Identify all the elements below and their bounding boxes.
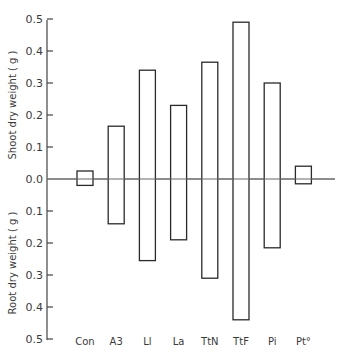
y-tick-label: 0.4 — [26, 45, 44, 58]
y-tick-label: 0.3 — [26, 77, 44, 90]
y-tick-label: 0.2 — [26, 237, 44, 250]
bar-con — [77, 171, 93, 185]
bar-ttf — [233, 22, 249, 320]
x-category-label: Con — [75, 336, 94, 347]
y-tick-label: 0.1 — [26, 205, 44, 218]
bar-la — [171, 105, 187, 239]
y-tick-label-zero: 0.0 — [26, 173, 44, 186]
x-category-label: TtF — [232, 336, 249, 347]
y-axis-title-root: Root dry weight ( g ) — [7, 212, 18, 315]
x-category-label: Ll — [143, 336, 151, 347]
bars — [47, 22, 335, 320]
x-category-label: A3 — [110, 336, 123, 347]
y-tick-label: 0.5 — [26, 333, 44, 346]
bar-a3 — [108, 126, 124, 224]
bar-pi — [264, 83, 280, 248]
bar-chart: 0.50.40.30.20.10.00.10.20.30.40.5Shoot d… — [0, 0, 347, 354]
x-category-label: TtN — [200, 336, 219, 347]
y-axis-title-shoot: Shoot dry weight ( g ) — [7, 50, 18, 159]
y-tick-label: 0.3 — [26, 269, 44, 282]
x-category-label: Pi — [268, 336, 277, 347]
bar-ll — [139, 70, 155, 260]
y-tick-label: 0.5 — [26, 13, 44, 26]
bar-pt — [295, 166, 311, 184]
y-tick-label: 0.1 — [26, 141, 44, 154]
x-category-label: Pt° — [296, 336, 311, 347]
y-tick-label: 0.2 — [26, 109, 44, 122]
x-category-label: La — [173, 336, 185, 347]
y-tick-label: 0.4 — [26, 301, 44, 314]
bar-ttn — [202, 62, 218, 278]
